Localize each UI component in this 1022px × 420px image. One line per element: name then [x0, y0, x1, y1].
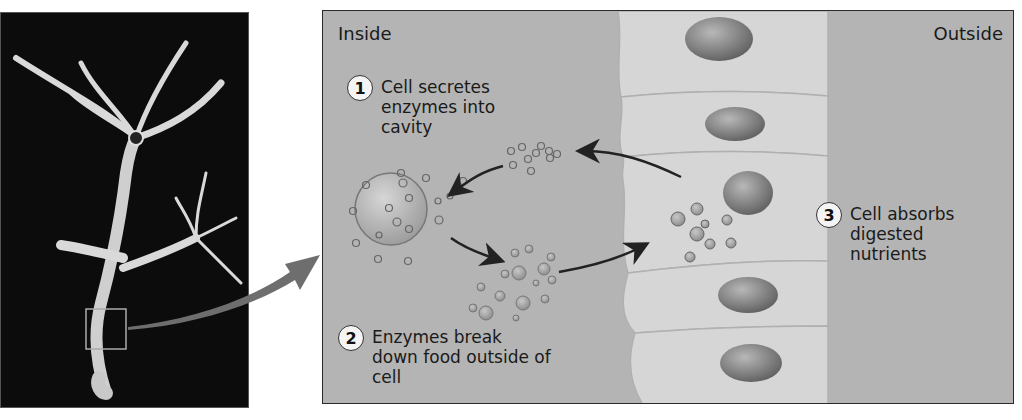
step-1: 1 Cell secretes enzymes into cavity [347, 77, 495, 137]
step-1-text: Cell secretes enzymes into cavity [381, 77, 495, 137]
food-particle [355, 173, 427, 245]
inside-label: Inside [338, 23, 392, 44]
zoom-arrow-icon [0, 0, 330, 420]
step-2: 2 Enzymes break down food outside of cel… [338, 327, 551, 387]
outside-label: Outside [933, 23, 1003, 44]
step-2-text: Enzymes break down food outside of cell [372, 327, 551, 387]
step-1-number-badge: 1 [347, 75, 373, 101]
digestion-diagram-panel: Inside Outside 1 Cell secretes enzymes i… [322, 10, 1014, 404]
step-3-number-badge: 3 [816, 202, 842, 228]
nucleus [685, 17, 753, 61]
step-3: 3 Cell absorbs digested nutrients [816, 204, 954, 264]
step-2-number-badge: 2 [338, 325, 364, 351]
step-3-text: Cell absorbs digested nutrients [850, 204, 954, 264]
